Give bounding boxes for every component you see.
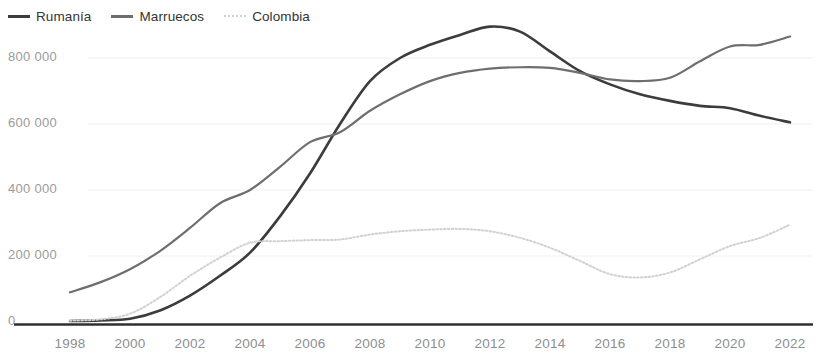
y-tick-label: 400 000 [8,181,57,196]
gridlines [88,58,813,256]
x-tick-label: 2002 [174,336,205,351]
chart-legend: Rumanía Marruecos Colombia [8,4,310,28]
y-tick-label: 600 000 [8,115,57,130]
series-lines [70,27,790,321]
legend-swatch-marruecos [111,15,133,18]
legend-label-colombia: Colombia [252,9,310,24]
x-tick-label: 2008 [354,336,385,351]
legend-label-rumania: Rumanía [36,9,91,24]
legend-swatch-colombia [224,15,246,17]
x-tick-label: 2020 [714,336,745,351]
y-tick-label: 800 000 [8,49,57,64]
legend-label-marruecos: Marruecos [139,9,204,24]
x-tick-label: 2014 [534,336,565,351]
x-tick-label: 2016 [594,336,625,351]
legend-item-marruecos[interactable]: Marruecos [111,9,204,24]
x-tick-label: 2022 [774,336,805,351]
x-tick-label: 2010 [414,336,445,351]
plot-area [0,0,815,359]
line-chart: Rumanía Marruecos Colombia 0200 000400 0… [0,0,815,359]
x-tick-label: 2000 [114,336,145,351]
series-line-marruecos[interactable] [70,37,790,293]
legend-swatch-rumania [8,15,30,18]
x-tick-label: 1998 [54,336,85,351]
x-tick-label: 2018 [654,336,685,351]
series-line-rumania[interactable] [70,27,790,321]
y-tick-label: 200 000 [8,247,57,262]
x-tick-label: 2004 [234,336,265,351]
x-tick-label: 2012 [474,336,505,351]
legend-item-colombia[interactable]: Colombia [224,9,310,24]
series-line-colombia[interactable] [70,225,790,321]
x-tick-label: 2006 [294,336,325,351]
legend-item-rumania[interactable]: Rumanía [8,9,91,24]
y-tick-label: 0 [8,313,16,328]
